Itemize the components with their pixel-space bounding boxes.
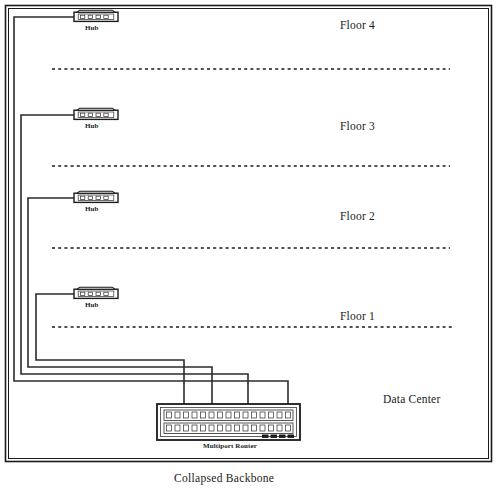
floor-label-4: Floor 4 [340, 20, 375, 32]
floor-label-1: Floor 1 [340, 311, 375, 323]
router-top-ports [167, 412, 291, 418]
hub-floor-4[interactable] [74, 10, 118, 21]
hub-floor-1[interactable] [74, 287, 118, 298]
collapsed-backbone-diagram: Floor 4 Floor 3 Floor 2 Floor 1 Hub Hub … [0, 0, 504, 498]
hub-floor-3[interactable] [74, 108, 118, 119]
hub-label-floor-3: Hub [85, 123, 99, 130]
backbone-cables [14, 17, 288, 404]
hub-label-floor-4: Hub [85, 25, 99, 32]
floor-label-2: Floor 2 [340, 211, 375, 223]
floor-label-3: Floor 3 [340, 121, 375, 133]
diagram-caption: Collapsed Backbone [174, 473, 274, 485]
hub-label-floor-2: Hub [85, 206, 99, 213]
zone-label-data-center: Data Center [383, 394, 440, 406]
hub-floor-2[interactable] [74, 191, 118, 202]
multiport-router[interactable] [157, 404, 300, 440]
cable-floor-4 [14, 17, 288, 404]
diagram-canvas [0, 0, 504, 498]
hub-label-floor-1: Hub [85, 302, 99, 309]
router-label: Multiport Router [203, 443, 257, 450]
cable-floor-1 [36, 294, 184, 404]
router-bottom-ports [167, 425, 291, 431]
